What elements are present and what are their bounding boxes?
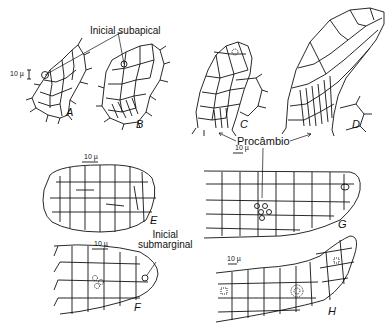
label-initial-submarginal: Inicial submarginal [138, 230, 192, 250]
panel-f-drawing [54, 245, 158, 314]
scale-label-e: 10 µ [84, 153, 98, 160]
label-initial-subapical: Inicial subapical [90, 25, 161, 36]
panel-letter-e: E [150, 214, 157, 226]
panel-letter-h: H [328, 305, 336, 317]
scale-label-a: 10 µ [10, 70, 24, 77]
panel-b-drawing [96, 32, 170, 130]
panel-letter-d: D [352, 118, 360, 130]
scale-label-h: 10 µ [227, 255, 241, 262]
panel-letter-b: B [136, 118, 143, 130]
scale-label-f: 10 µ [94, 240, 108, 247]
panel-letter-c: C [240, 118, 248, 130]
panel-e-drawing [43, 165, 156, 232]
panel-g-drawing [204, 171, 360, 238]
panel-letter-g: G [338, 218, 347, 230]
panel-c-drawing [192, 42, 268, 136]
panel-a-drawing [26, 32, 122, 124]
panel-d-drawing [282, 8, 384, 136]
cell-drawings [0, 0, 392, 330]
scale-label-g: 10 µ [235, 144, 249, 151]
panel-letter-a: A [66, 106, 73, 118]
panel-letter-f: F [134, 301, 141, 313]
label-initial-submarginal-line2: submarginal [138, 240, 192, 250]
